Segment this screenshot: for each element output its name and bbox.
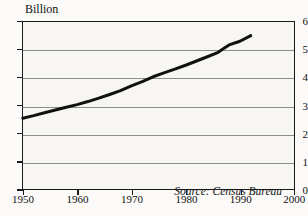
x-axis-tick-label-2000: 2000 <box>277 193 308 205</box>
y-axis-tick-label-3: 3 <box>292 100 308 111</box>
x-axis-tick-label-1990: 1990 <box>224 193 258 205</box>
y-axis-tick-label-5: 5 <box>292 44 308 55</box>
x-axis-tick-label-1950: 1950 <box>6 193 40 205</box>
y-axis-tick-label-4: 4 <box>292 72 308 83</box>
gridline-1 <box>23 163 294 164</box>
y-axis-tick-mark-2 <box>17 133 23 134</box>
y-axis-tick-mark-6 <box>17 21 23 22</box>
y-axis-tick-mark-3 <box>17 105 23 106</box>
y-axis-tick-mark-5 <box>17 49 23 50</box>
y-axis-tick-mark-1 <box>17 161 23 162</box>
gridline-4 <box>23 78 294 79</box>
x-axis-tick-label-1970: 1970 <box>115 193 149 205</box>
x-axis-tick-label-1980: 1980 <box>169 193 203 205</box>
y-axis-unit-label: Billion <box>25 2 58 16</box>
plot-area: Source: Census Bureau <box>22 21 295 190</box>
x-axis-tick-label-1960: 1960 <box>61 193 95 205</box>
gridline-2 <box>23 135 294 136</box>
gridline-3 <box>23 107 294 108</box>
y-axis-tick-label-2: 2 <box>292 128 308 139</box>
y-axis-tick-label-1: 1 <box>292 156 308 167</box>
gridline-5 <box>23 50 294 51</box>
population-chart-screenshot: Billion Source: Census Bureau 6 5 4 3 2 … <box>0 0 308 216</box>
y-axis-tick-label-6: 6 <box>292 16 308 27</box>
y-axis-tick-mark-4 <box>17 77 23 78</box>
